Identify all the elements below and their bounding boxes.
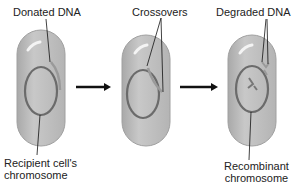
label-recombinant-line2: chromosome bbox=[224, 172, 289, 184]
cell-recipient bbox=[17, 19, 65, 155]
label-degraded-dna: Degraded DNA bbox=[216, 6, 291, 18]
label-recipient-chromosome: Recipient cell's chromosome bbox=[4, 157, 77, 181]
cell-recombinant bbox=[228, 19, 276, 160]
label-recipient-line1: Recipient cell's bbox=[4, 157, 77, 169]
label-recombinant-line1: Recombinant bbox=[224, 160, 289, 172]
label-crossovers: Crossovers bbox=[132, 6, 188, 18]
arrow-2-icon bbox=[180, 83, 218, 91]
cell-crossover bbox=[122, 18, 170, 146]
label-donated-dna: Donated DNA bbox=[13, 6, 81, 18]
label-recombinant-chromosome: Recombinant chromosome bbox=[224, 160, 289, 184]
arrow-1-icon bbox=[76, 83, 111, 91]
label-recipient-line2: chromosome bbox=[4, 169, 77, 181]
